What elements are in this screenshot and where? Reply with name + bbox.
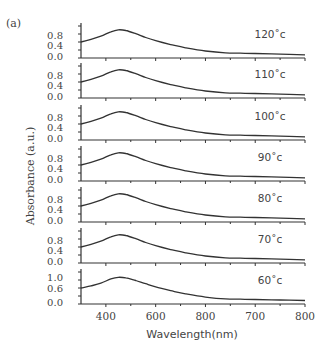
y-tick-label: 0.0 — [47, 133, 63, 144]
panel-70c: 0.80.40.070˚c — [47, 228, 305, 267]
y-tick-label: 1.0 — [47, 272, 63, 283]
panel-90c: 0.80.40.090˚c — [47, 146, 305, 185]
panel-120c: 0.80.40.0120˚c — [47, 23, 305, 62]
x-tick-label: 600 — [146, 310, 166, 322]
panel-label: (a) — [6, 17, 21, 30]
y-tick-label: 0.4 — [47, 245, 63, 256]
y-tick-label: 0.0 — [47, 215, 63, 226]
y-tick-label: 0.0 — [47, 51, 63, 62]
x-tick-label: 800 — [195, 310, 215, 322]
x-tick-label: 400 — [96, 310, 116, 322]
panel-80c: 0.80.40.080˚c — [47, 187, 305, 226]
x-axis-label: Wavelength(nm) — [146, 328, 238, 341]
y-tick-label: 0.6 — [47, 283, 63, 294]
y-axis-label: Absorbance (a.u.) — [24, 127, 37, 227]
y-tick-label: 0.4 — [47, 163, 63, 174]
y-tick-label: 0.0 — [47, 256, 63, 267]
y-tick-label: 0.4 — [47, 40, 63, 51]
y-tick-label: 0.0 — [47, 174, 63, 185]
x-tick-label: 800 — [295, 310, 315, 322]
temperature-label: 90˚c — [258, 151, 283, 163]
temperature-label: 80˚c — [258, 192, 283, 204]
panel-60c: 1.00.60.060˚c — [47, 269, 305, 308]
temperature-label: 110˚c — [254, 68, 285, 80]
y-tick-label: 0.0 — [47, 91, 63, 102]
y-tick-label: 0.4 — [47, 204, 63, 215]
absorbance-stacked-chart: (a) Absorbance (a.u.) Wavelength(nm) 0.8… — [0, 0, 324, 358]
y-tick-label: 0.0 — [47, 297, 63, 308]
y-tick-label: 0.4 — [47, 122, 63, 133]
temperature-label: 120˚c — [254, 28, 285, 40]
panel-100c: 0.80.40.0100˚c — [47, 105, 305, 144]
temperature-label: 100˚c — [254, 110, 285, 122]
temperature-label: 60˚c — [258, 274, 283, 286]
y-tick-label: 0.4 — [47, 80, 63, 91]
temperature-label: 70˚c — [258, 233, 283, 245]
x-tick-label: 700 — [245, 310, 265, 322]
panel-110c: 0.80.40.0110˚c — [47, 63, 305, 102]
